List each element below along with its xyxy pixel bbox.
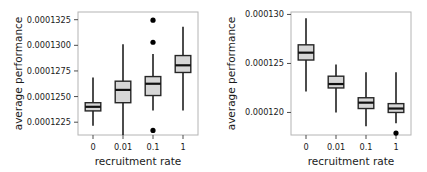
outlier-point: [150, 40, 155, 45]
y-tick-label: 0.0001225: [27, 117, 71, 127]
x-tick-label: 1: [180, 142, 185, 152]
box: [175, 56, 191, 73]
box-plot-group: [298, 18, 314, 91]
box: [145, 77, 161, 96]
x-axis: 00.010.11: [90, 135, 185, 152]
box-plot-group: [358, 72, 374, 126]
outlier-point: [150, 18, 155, 23]
outlier-point: [150, 128, 155, 133]
y-axis: 0.0001200.0001250.000130: [245, 9, 291, 117]
x-tick-label: 0.01: [327, 142, 345, 152]
y-tick-label: 0.000120: [245, 107, 284, 117]
x-tick-label: 0.1: [359, 142, 372, 152]
y-axis-title: average performance: [225, 17, 237, 131]
left-panel-canvas: 0.00012250.00012500.00012750.00013000.00…: [0, 0, 213, 172]
x-tick-label: 0.01: [114, 142, 132, 152]
box: [328, 76, 344, 88]
right-panel: 0.0001200.0001250.000130average performa…: [213, 0, 426, 172]
x-tick-label: 1: [393, 142, 398, 152]
x-axis: 00.010.11: [303, 135, 398, 152]
y-tick-label: 0.0001300: [27, 40, 71, 50]
y-tick-label: 0.0001250: [27, 92, 71, 102]
y-axis: 0.00012250.00012500.00012750.00013000.00…: [27, 15, 78, 128]
box-plot-group: [328, 64, 344, 112]
outlier-point: [393, 130, 398, 135]
right-panel-canvas: 0.0001200.0001250.000130average performa…: [213, 0, 426, 172]
y-axis-title: average performance: [12, 17, 24, 131]
y-tick-label: 0.0001325: [27, 15, 71, 25]
box: [115, 81, 131, 103]
x-axis-title: recruitment rate: [308, 155, 394, 167]
box-plot-group: [85, 78, 101, 126]
y-tick-label: 0.000125: [245, 58, 284, 68]
x-tick-label: 0: [303, 142, 308, 152]
box-plot-group: [145, 18, 161, 133]
y-tick-label: 0.000130: [245, 9, 284, 19]
plot-frame: [291, 12, 411, 135]
box-plot-group: [388, 72, 404, 135]
y-tick-label: 0.0001275: [27, 66, 71, 76]
plot-frame: [78, 12, 198, 135]
box-plot-group: [175, 27, 191, 111]
box-plot-figure: 0.00012250.00012500.00012750.00013000.00…: [0, 0, 427, 172]
left-panel: 0.00012250.00012500.00012750.00013000.00…: [0, 0, 213, 172]
x-tick-label: 0.1: [146, 142, 159, 152]
x-axis-title: recruitment rate: [95, 155, 181, 167]
box-plot-group: [115, 44, 131, 135]
x-tick-label: 0: [90, 142, 95, 152]
